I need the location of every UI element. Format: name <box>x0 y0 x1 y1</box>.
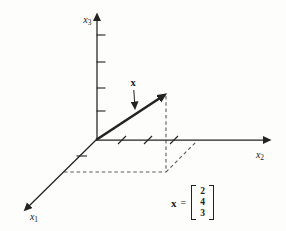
vector-equation: x = 2 4 3 <box>171 185 214 220</box>
vector-diagram: x3 x2 x1 x <box>0 0 286 231</box>
x3-axis-ticks <box>97 35 106 111</box>
vector-entry: 2 <box>200 186 205 197</box>
x3-axis-label: x3 <box>82 14 91 27</box>
right-bracket <box>209 185 214 220</box>
vector-entry: 3 <box>200 208 205 219</box>
label-pointer-arrow <box>134 90 135 103</box>
x2-axis-label: x2 <box>255 149 264 162</box>
x1-axis <box>29 140 96 206</box>
figure-canvas: x3 x2 x1 x x = 2 4 3 <box>0 0 286 231</box>
x1-axis-label: x1 <box>29 211 38 224</box>
diagonal-dashed-line <box>166 141 197 172</box>
equation-lhs: x <box>171 197 177 209</box>
vector-entry: 4 <box>200 197 205 208</box>
equals-sign: = <box>181 197 187 208</box>
vector-arrow <box>96 98 160 140</box>
vector-entries: 2 4 3 <box>196 185 209 220</box>
projection-dashed-lines <box>64 96 197 172</box>
vector-label: x <box>130 77 136 88</box>
